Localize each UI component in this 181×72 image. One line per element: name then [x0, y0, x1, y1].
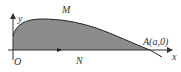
y-axis-label: y [18, 14, 22, 24]
point-m-label: M [62, 5, 70, 15]
point-n-label: N [76, 56, 83, 66]
origin-label: O [14, 57, 21, 67]
x-axis-label: x [172, 52, 176, 62]
point-a-label: A(a,0) [143, 37, 168, 47]
diagram: y x O M N A(a,0) [0, 0, 181, 72]
